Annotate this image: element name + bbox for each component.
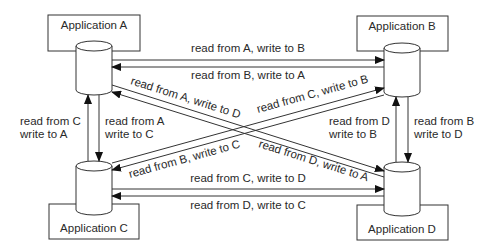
- label-a-to-c-line2: write to C: [104, 128, 154, 140]
- label-d-to-c: read from D, write to C: [190, 199, 306, 211]
- label-b-to-d-line2: write to D: [413, 128, 463, 140]
- label-b-to-d-line1: read from B: [414, 115, 474, 127]
- database-a-icon: [76, 41, 112, 95]
- replication-diagram: Application A Application B Application …: [0, 0, 490, 250]
- application-d-label: Application D: [368, 223, 436, 235]
- label-d-to-b-line2: write to B: [328, 128, 377, 140]
- label-c-to-a-line1: read from C: [20, 115, 81, 127]
- label-b-to-a: read from B, write to A: [191, 69, 305, 81]
- application-b-label: Application B: [368, 20, 435, 32]
- label-d-to-b-line1: read from D: [329, 115, 390, 127]
- label-c-to-d: read from C, write to D: [190, 172, 306, 184]
- label-c-to-a-line2: write to A: [19, 128, 68, 140]
- database-d-icon: [384, 162, 420, 216]
- label-a-to-c-line1: read from A: [105, 115, 165, 127]
- database-b-icon: [384, 43, 420, 97]
- database-c-icon: [76, 161, 112, 215]
- application-c-label: Application C: [60, 222, 128, 234]
- application-a-label: Application A: [61, 19, 128, 31]
- label-a-to-d: read from A, write to D: [129, 74, 242, 120]
- label-a-to-b: read from A, write to B: [191, 42, 305, 54]
